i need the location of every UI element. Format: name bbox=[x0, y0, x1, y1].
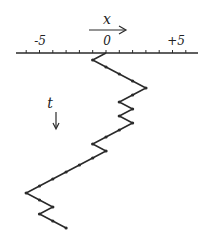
walk-step-dot bbox=[78, 163, 81, 166]
walk-step-dot bbox=[131, 121, 134, 124]
walk-step-dot bbox=[131, 107, 134, 110]
walk-step-dot bbox=[91, 58, 94, 61]
x-axis-name: x bbox=[103, 11, 111, 27]
x-axis: -5 0 +5 bbox=[16, 34, 198, 53]
walk-step-dot bbox=[25, 191, 28, 194]
walk-step-dot bbox=[51, 219, 54, 222]
walk-step-dot bbox=[38, 198, 41, 201]
walk-step-dot bbox=[51, 205, 54, 208]
walk-step-dot bbox=[65, 226, 68, 229]
tick-label-minus-5: -5 bbox=[34, 34, 46, 48]
random-walk-diagram: -5 0 +5 x t bbox=[0, 0, 212, 244]
walk-step-dot bbox=[131, 79, 134, 82]
walk-step-dot bbox=[118, 72, 121, 75]
walk-step-dot bbox=[65, 170, 68, 173]
walk-step-dot bbox=[38, 212, 41, 215]
walk-step-dot bbox=[104, 65, 107, 68]
tick-label-plus-5: +5 bbox=[167, 34, 185, 48]
walk-step-dot bbox=[118, 114, 121, 117]
walk-step-dot bbox=[91, 142, 94, 145]
x-direction-indicator: x bbox=[89, 11, 126, 34]
walk-path-group bbox=[25, 53, 148, 230]
t-direction-indicator: t bbox=[47, 95, 59, 129]
t-axis-name: t bbox=[47, 95, 53, 111]
walk-step-dot bbox=[91, 156, 94, 159]
walk-path bbox=[26, 53, 146, 228]
walk-step-dot bbox=[104, 149, 107, 152]
walk-step-dot bbox=[38, 184, 41, 187]
walk-step-dot bbox=[118, 100, 121, 103]
walk-step-dot bbox=[51, 177, 54, 180]
tick-label-0: 0 bbox=[103, 34, 111, 48]
walk-step-dot bbox=[104, 135, 107, 138]
walk-step-dot bbox=[144, 86, 147, 89]
walk-step-dot bbox=[118, 128, 121, 131]
walk-step-dot bbox=[131, 93, 134, 96]
